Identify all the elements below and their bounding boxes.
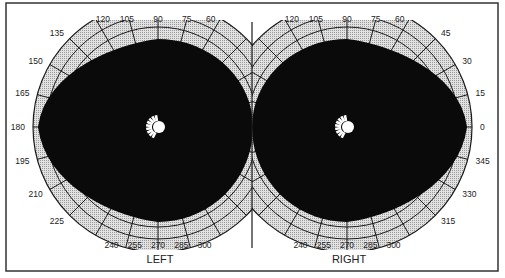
- tick-label-255: 255: [317, 240, 331, 250]
- tick-label-60: 60: [206, 14, 216, 24]
- tick-label-300: 300: [197, 240, 211, 250]
- right-eye-label: RIGHT: [332, 253, 367, 265]
- tick-label-90: 90: [153, 14, 163, 24]
- tick-label-165: 165: [15, 88, 29, 98]
- tick-label-240: 240: [104, 240, 118, 250]
- right-eye-field: [222, 2, 472, 252]
- tick-label-180: 180: [11, 122, 25, 132]
- visual-field-diagram: 1201059075601351501651801952102252402552…: [0, 0, 505, 278]
- tick-label-255: 255: [128, 240, 142, 250]
- tick-label-270: 270: [151, 240, 165, 250]
- tick-label-270: 270: [340, 240, 354, 250]
- left-eye-label: LEFT: [147, 253, 174, 265]
- tick-label-300: 300: [386, 240, 400, 250]
- tick-label-105: 105: [120, 14, 134, 24]
- tick-label-120: 120: [96, 14, 110, 24]
- tick-label-75: 75: [371, 14, 381, 24]
- tick-label-120: 120: [285, 14, 299, 24]
- tick-label-285: 285: [174, 240, 188, 250]
- tick-label-15: 15: [476, 88, 486, 98]
- left-eye-field: [33, 2, 283, 252]
- tick-label-330: 330: [462, 189, 476, 199]
- tick-label-225: 225: [50, 216, 64, 226]
- tick-label-135: 135: [50, 28, 64, 38]
- tick-label-105: 105: [309, 14, 323, 24]
- tick-label-195: 195: [15, 156, 29, 166]
- visual-field-chart: 1201059075601351501651801952102252402552…: [0, 0, 505, 278]
- tick-label-60: 60: [395, 14, 405, 24]
- tick-label-150: 150: [29, 56, 43, 66]
- tick-label-75: 75: [182, 14, 192, 24]
- tick-label-0: 0: [480, 122, 485, 132]
- tick-label-315: 315: [441, 216, 455, 226]
- tick-label-285: 285: [363, 240, 377, 250]
- tick-label-90: 90: [342, 14, 352, 24]
- tick-label-45: 45: [441, 28, 451, 38]
- tick-label-30: 30: [462, 56, 472, 66]
- tick-label-240: 240: [293, 240, 307, 250]
- tick-label-210: 210: [29, 189, 43, 199]
- tick-label-345: 345: [476, 156, 490, 166]
